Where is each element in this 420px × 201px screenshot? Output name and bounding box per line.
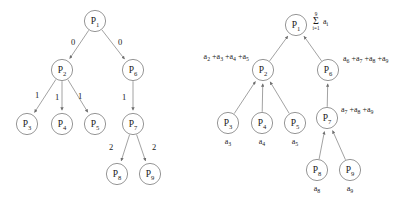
edge-weight-p7-p8: 2 [109, 142, 113, 152]
edge-weight-p6-p7: 1 [122, 92, 126, 102]
annotation-p6-partial-sum: a6 +a7 +a8 +a9 [343, 54, 389, 64]
edge-weight-p2-p5: 1 [78, 91, 82, 101]
edge-weight-p1-p2: 0 [71, 37, 75, 47]
annotation-p2-partial-sum: a2 +a3 +a4 +a5 [204, 52, 250, 62]
edge-weight-p2-p4: 1 [55, 92, 59, 102]
summation-lower-limit: i=1 [313, 25, 320, 31]
two-tree-diagram-figure: 00111122P1P2P6P3P4P5P7P8P9 P1P2P6P3P4P5P… [0, 0, 420, 201]
edge-weight-p2-p3: 1 [35, 90, 39, 100]
edge-weight-p1-p6: 0 [118, 37, 122, 47]
edge-weight-p7-p9: 2 [152, 142, 156, 152]
edge-p4-to-p2 [262, 84, 263, 112]
